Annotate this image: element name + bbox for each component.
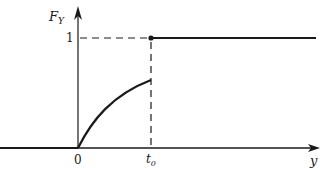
x-axis-label: y [309, 153, 318, 168]
tick-one-label: 1 [66, 31, 74, 45]
tick-zero-label: 0 [74, 153, 82, 167]
y-axis-label: FY [48, 9, 65, 26]
cdf-diagram: FY 1 0 t0 y [0, 0, 322, 170]
y-axis [74, 6, 82, 148]
tick-t0-label: t0 [146, 152, 156, 168]
rising-curve [78, 80, 151, 148]
jump-point-dot [148, 35, 153, 40]
